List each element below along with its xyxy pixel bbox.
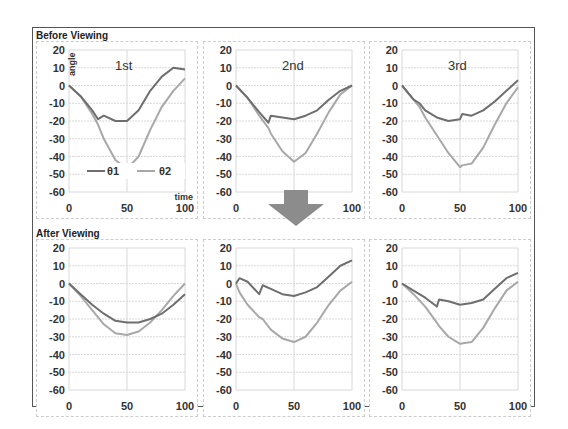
y-tick-label: 10 (386, 260, 398, 272)
y-tick-label: -60 (216, 384, 232, 396)
y-tick-label: -10 (216, 97, 232, 109)
panel-title: 1st (115, 58, 133, 73)
chart-after-1: 20100-10-20-30-40-50-60050100 (36, 239, 198, 417)
x-tick-label: 100 (343, 400, 361, 412)
y-tick-label: -60 (49, 186, 65, 198)
y-tick-label: -10 (49, 295, 65, 307)
y-tick-label: 0 (226, 278, 232, 290)
y-tick-label: 20 (386, 44, 398, 56)
y-tick-label: -60 (216, 186, 232, 198)
y-tick-label: -10 (216, 295, 232, 307)
y-tick-label: 10 (53, 260, 65, 272)
x-tick-label: 50 (121, 400, 133, 412)
panel-title: 3rd (448, 58, 467, 73)
y-tick-label: -20 (382, 313, 398, 325)
y-tick-label: -60 (382, 384, 398, 396)
legend-theta2: θ2 (159, 165, 171, 177)
y-tick-label: -50 (216, 168, 232, 180)
y-tick-label: 10 (220, 62, 232, 74)
x-tick-label: 100 (176, 202, 194, 214)
y-tick-label: -50 (49, 168, 65, 180)
y-tick-label: 10 (220, 260, 232, 272)
y-tick-label: 20 (53, 242, 65, 254)
y-tick-label: -10 (49, 97, 65, 109)
y-tick-label: -50 (216, 366, 232, 378)
y-tick-label: 0 (226, 80, 232, 92)
y-tick-label: -30 (382, 331, 398, 343)
chart-before-1st: 20100-10-20-30-40-50-600501001stangletim… (36, 41, 198, 219)
y-tick-label: -10 (382, 97, 398, 109)
section-label-before: Before Viewing (36, 30, 108, 41)
y-tick-label: 0 (392, 278, 398, 290)
x-tick-label: 50 (121, 202, 133, 214)
x-tick-label: 50 (454, 202, 466, 214)
down-arrow-icon (268, 190, 324, 226)
y-tick-label: -40 (49, 349, 65, 361)
y-tick-label: -20 (216, 313, 232, 325)
x-tick-label: 100 (509, 202, 527, 214)
y-tick-label: -60 (382, 186, 398, 198)
y-tick-label: -20 (49, 115, 65, 127)
section-label-after: After Viewing (36, 228, 100, 239)
x-tick-label: 0 (233, 202, 239, 214)
y-tick-label: -60 (49, 384, 65, 396)
chart-after-3: 20100-10-20-30-40-50-60050100 (369, 239, 531, 417)
x-tick-label: 50 (288, 400, 300, 412)
y-tick-label: -30 (49, 331, 65, 343)
y-tick-label: -30 (216, 133, 232, 145)
chart-after-2: 20100-10-20-30-40-50-60050100 (203, 239, 365, 417)
y-tick-label: 20 (386, 242, 398, 254)
y-tick-label: -30 (49, 133, 65, 145)
y-tick-label: 0 (59, 80, 65, 92)
y-tick-label: -50 (49, 366, 65, 378)
y-tick-label: -20 (216, 115, 232, 127)
x-tick-label: 0 (66, 400, 72, 412)
y-tick-label: -40 (216, 151, 232, 163)
chart-before-3rd: 20100-10-20-30-40-50-600501003rd (369, 41, 531, 219)
y-tick-label: 20 (220, 44, 232, 56)
x-tick-label: 50 (454, 400, 466, 412)
y-tick-label: 20 (220, 242, 232, 254)
y-tick-label: 10 (53, 62, 65, 74)
y-tick-label: 0 (59, 278, 65, 290)
y-tick-label: -10 (382, 295, 398, 307)
y-tick-label: -20 (382, 115, 398, 127)
x-tick-label: 100 (343, 202, 361, 214)
y-tick-label: -20 (49, 313, 65, 325)
y-axis-label: angle (67, 52, 77, 76)
x-tick-label: 0 (233, 400, 239, 412)
y-tick-label: -40 (216, 349, 232, 361)
panel-title: 2nd (282, 58, 304, 73)
y-tick-label: -40 (382, 349, 398, 361)
x-tick-label: 0 (399, 202, 405, 214)
y-tick-label: -40 (382, 151, 398, 163)
x-tick-label: 100 (509, 400, 527, 412)
y-tick-label: 0 (392, 80, 398, 92)
y-tick-label: -50 (382, 366, 398, 378)
y-tick-label: -40 (49, 151, 65, 163)
x-tick-label: 0 (66, 202, 72, 214)
legend-theta1: θ1 (107, 165, 119, 177)
y-tick-label: -50 (382, 168, 398, 180)
x-tick-label: 0 (399, 400, 405, 412)
y-tick-label: -30 (382, 133, 398, 145)
y-tick-label: -30 (216, 331, 232, 343)
x-tick-label: 100 (176, 400, 194, 412)
x-axis-label: time (174, 192, 193, 202)
y-tick-label: 10 (386, 62, 398, 74)
y-tick-label: 20 (53, 44, 65, 56)
